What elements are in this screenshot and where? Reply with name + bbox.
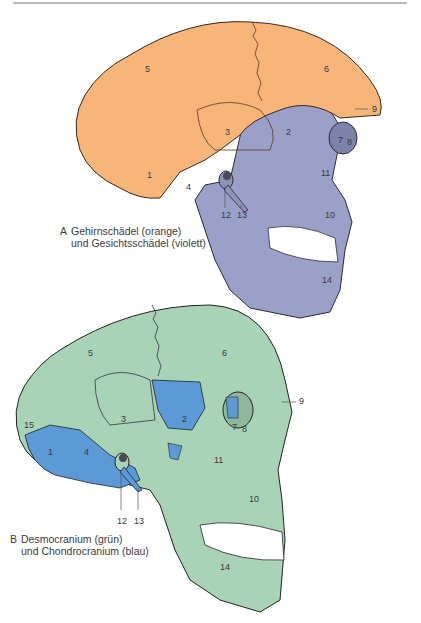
svg-text:11: 11: [214, 455, 223, 465]
caption-a-line1: Gehirnschädel (orange): [71, 225, 181, 237]
skull-a-illustration: 5 6 3 2 7 8 9 10 11 1 4 12 13 14: [0, 0, 421, 320]
svg-text:7: 7: [338, 135, 343, 145]
caption-b-line1: Desmocranium (grün): [21, 533, 123, 545]
svg-text:1: 1: [147, 170, 152, 180]
svg-text:6: 6: [324, 64, 329, 74]
svg-text:12: 12: [117, 516, 127, 526]
svg-text:2: 2: [286, 127, 291, 137]
svg-text:2: 2: [182, 414, 187, 424]
svg-text:9: 9: [299, 396, 304, 406]
svg-text:9: 9: [372, 104, 377, 114]
svg-text:3: 3: [121, 414, 126, 424]
svg-text:15: 15: [24, 420, 34, 430]
svg-text:5: 5: [145, 64, 150, 74]
external-acoustic-meatus: [223, 172, 231, 180]
svg-text:10: 10: [325, 210, 335, 220]
skull-b-illustration: 5 6 3 2 7 8 9 10 11 1 4 15 12 13 14: [0, 300, 421, 623]
chondrocranium-ethmoid: [226, 397, 238, 418]
svg-text:4: 4: [84, 447, 89, 457]
svg-text:13: 13: [237, 210, 247, 220]
caption-b: BDesmocranium (grün) und Chondrocranium …: [10, 533, 149, 557]
svg-text:6: 6: [222, 348, 227, 358]
figure-b-skull-lateral: 5 6 3 2 7 8 9 10 11 1 4 15 12 13 14 BDes…: [0, 300, 421, 623]
svg-text:8: 8: [242, 424, 247, 434]
svg-text:3: 3: [225, 127, 230, 137]
caption-a-line2: und Gesichtsschädel (violett): [60, 237, 206, 249]
external-acoustic-meatus: [119, 454, 127, 462]
svg-text:14: 14: [220, 562, 230, 572]
svg-text:4: 4: [186, 182, 191, 192]
svg-text:11: 11: [321, 168, 330, 178]
svg-text:13: 13: [134, 516, 144, 526]
svg-text:12: 12: [221, 210, 231, 220]
caption-b-letter: B: [10, 533, 21, 545]
svg-text:10: 10: [249, 494, 259, 504]
figure-a-skull-lateral: 5 6 3 2 7 8 9 10 11 1 4 12 13 14 AGehirn…: [0, 0, 421, 320]
svg-text:7: 7: [232, 422, 237, 432]
svg-text:5: 5: [88, 348, 93, 358]
svg-text:14: 14: [322, 275, 332, 285]
svg-text:1: 1: [48, 447, 53, 457]
caption-b-line2: und Chondrocranium (blau): [10, 545, 149, 557]
caption-a: AGehirnschädel (orange) und Gesichtsschä…: [60, 225, 206, 249]
caption-a-letter: A: [60, 225, 71, 237]
svg-text:8: 8: [347, 137, 352, 147]
